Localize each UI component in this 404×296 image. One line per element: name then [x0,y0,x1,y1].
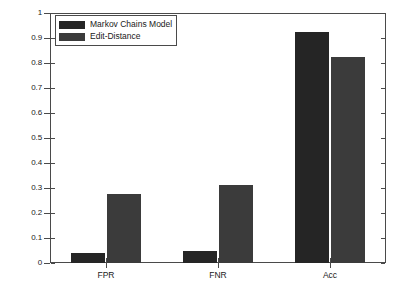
y-axis-label: 0.5 [2,134,42,142]
bar [183,251,217,263]
legend-label: Markov Chains Model [90,20,172,29]
y-axis-tick-inner [51,213,55,214]
x-axis-label: FPR [76,270,136,280]
x-axis-label: FNR [188,270,248,280]
y-axis-tick-inner-right [381,163,385,164]
y-axis-tick [44,263,50,264]
y-axis-tick-inner-right [381,13,385,14]
bar [295,32,329,263]
bar-chart-figure: 00.10.20.30.40.50.60.70.80.91 FPRFNRAcc … [0,0,404,296]
y-axis-tick-inner-right [381,63,385,64]
y-axis-tick-inner-right [381,88,385,89]
y-axis-tick-inner-right [381,263,385,264]
x-axis-tick [330,263,331,268]
y-axis-label: 0.6 [2,109,42,117]
y-axis-tick-inner [51,13,55,14]
y-axis-tick-inner [51,263,55,264]
x-axis-tick [218,263,219,268]
y-axis-label: 0.3 [2,184,42,192]
y-axis-tick [44,113,50,114]
x-axis-tick [106,263,107,268]
y-axis-tick-inner-right [381,238,385,239]
legend-swatch [59,21,85,29]
y-axis-label: 0 [2,259,42,267]
y-axis-label: 1 [2,9,42,17]
y-axis-tick-inner [51,138,55,139]
y-axis-tick-inner-right [381,38,385,39]
y-axis-label: 0.2 [2,209,42,217]
y-axis-tick [44,63,50,64]
legend-item: Edit-Distance [59,31,172,42]
y-axis-tick-inner-right [381,188,385,189]
y-axis-tick [44,38,50,39]
legend-item: Markov Chains Model [59,19,172,30]
y-axis-tick [44,163,50,164]
bar [107,194,141,263]
y-axis-tick-inner-right [381,113,385,114]
legend-label: Edit-Distance [90,32,141,41]
y-axis-tick [44,238,50,239]
bar [219,185,253,263]
y-axis-tick [44,213,50,214]
y-axis-tick-inner [51,238,55,239]
y-axis-tick-inner-right [381,138,385,139]
y-axis-tick-inner [51,113,55,114]
y-axis-tick [44,13,50,14]
legend-swatch [59,33,85,41]
y-axis-tick-inner-right [381,213,385,214]
x-axis-label: Acc [300,270,360,280]
y-axis-tick-inner [51,63,55,64]
bar [331,57,365,263]
chart-legend: Markov Chains ModelEdit-Distance [55,15,177,46]
y-axis-tick-inner [51,88,55,89]
y-axis-tick [44,138,50,139]
y-axis-label: 0.8 [2,59,42,67]
y-axis-tick [44,188,50,189]
y-axis-label: 0.4 [2,159,42,167]
y-axis-label: 0.9 [2,34,42,42]
y-axis-tick-inner [51,163,55,164]
y-axis-label: 0.7 [2,84,42,92]
bar [71,253,105,263]
y-axis-tick [44,88,50,89]
y-axis-label: 0.1 [2,234,42,242]
y-axis-tick-inner [51,188,55,189]
